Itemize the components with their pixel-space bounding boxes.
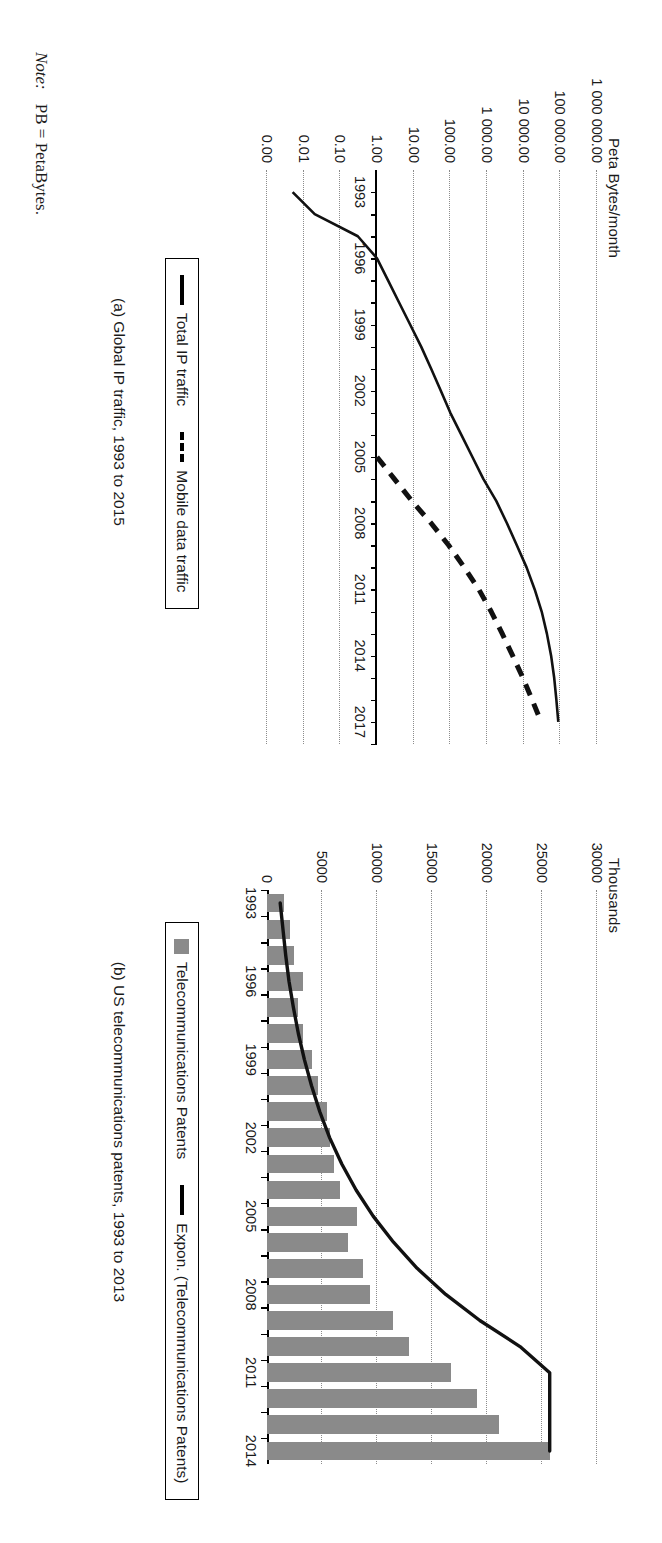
panel-us-telecom-patents: Thousands 300002500020000150001000050000…: [31, 772, 631, 1492]
y-axis-tick-label: 1 000 000.00: [589, 78, 605, 163]
series-dashed-line: [377, 457, 541, 722]
panel-a-plot-area: 1 000 000.00100 000.0010 000.001 000.001…: [267, 170, 597, 744]
legend-item-expon-trendline: Expon. (Telecommunications Patents): [173, 1185, 191, 1483]
panel-b-trendline-svg: [267, 890, 597, 1464]
solid-line-swatch-icon: [180, 275, 183, 305]
legend-label: Telecommunications Patents: [173, 962, 191, 1159]
y-axis-tick-label: 10000: [369, 842, 385, 882]
panel-a-legend: Total IP traffic Mobile data traffic: [165, 258, 199, 609]
y-axis-tick-label: 15000: [424, 842, 440, 882]
x-axis-tick-label: 1996: [243, 965, 259, 997]
panel-a-caption: (a) Global IP traffic, 1993 to 2015: [110, 52, 128, 772]
x-axis-tick-label: 1993: [243, 886, 259, 918]
dashed-line-swatch-icon: [180, 432, 184, 462]
figure: Peta Bytes/month 1 000 000.00100 000.001…: [31, 52, 631, 1492]
panel-a-series-svg: [267, 170, 597, 744]
legend-item-total-ip-traffic: Total IP traffic: [173, 275, 191, 406]
x-axis-tick-label: 2011: [243, 1357, 259, 1388]
y-axis-tick-label: 0.00: [259, 134, 275, 162]
legend-label: Mobile data traffic: [173, 470, 191, 592]
y-axis-tick-label: 1.00: [369, 134, 385, 162]
y-axis-tick-label: 1 000.00: [479, 106, 495, 162]
legend-item-telecommunications-patents: Telecommunications Patents: [173, 939, 191, 1159]
y-axis-tick-label: 10.00: [406, 126, 422, 162]
y-axis-tick-label: 20000: [479, 842, 495, 882]
x-axis-tick-label: 2014: [243, 1434, 259, 1466]
solid-line-swatch-icon: [180, 1185, 183, 1215]
bar-swatch-icon: [175, 939, 190, 954]
panel-b-caption: (b) US telecommunications patents, 1993 …: [110, 772, 128, 1492]
legend-item-mobile-data-traffic: Mobile data traffic: [173, 432, 191, 592]
figure-note: Note: PB = PetaBytes.: [31, 52, 51, 1492]
exponential-trendline: [280, 903, 550, 1451]
panel-b-legend: Telecommunications Patents Expon. (Telec…: [165, 922, 199, 1500]
x-axis-tick-label: 2005: [243, 1199, 259, 1231]
y-axis-tick-label: 10 000.00: [516, 98, 532, 163]
series-solid-line: [293, 192, 559, 722]
panel-b-axis-title: Thousands: [606, 858, 623, 933]
y-axis-tick-label: 0.10: [332, 134, 348, 162]
panel-a-axis-title: Peta Bytes/month: [606, 138, 623, 258]
figure-rotation-wrapper: Peta Bytes/month 1 000 000.00100 000.001…: [31, 52, 631, 1492]
y-axis-tick-label: 100 000.00: [552, 90, 568, 163]
x-axis-tick-label: 2008: [243, 1278, 259, 1310]
y-axis-tick-label: 100.00: [442, 118, 458, 162]
note-label: Note:: [31, 52, 51, 90]
y-axis-tick-label: 30000: [589, 842, 605, 882]
panel-global-ip-traffic: Peta Bytes/month 1 000 000.00100 000.001…: [31, 52, 631, 772]
y-axis-tick-label: 25000: [534, 842, 550, 882]
y-axis-tick-label: 0.01: [296, 134, 312, 162]
note-text: PB = PetaBytes.: [31, 103, 51, 214]
panel-b-plot-area: 3000025000200001500010000500001993199619…: [267, 890, 597, 1464]
legend-label: Expon. (Telecommunications Patents): [173, 1223, 191, 1483]
y-axis-tick-label: 0: [259, 874, 275, 882]
x-axis-tick-label: 2002: [243, 1121, 259, 1153]
x-axis-tick-label: 1999: [243, 1043, 259, 1075]
legend-label: Total IP traffic: [173, 313, 191, 406]
y-axis-tick-label: 5000: [314, 850, 330, 882]
